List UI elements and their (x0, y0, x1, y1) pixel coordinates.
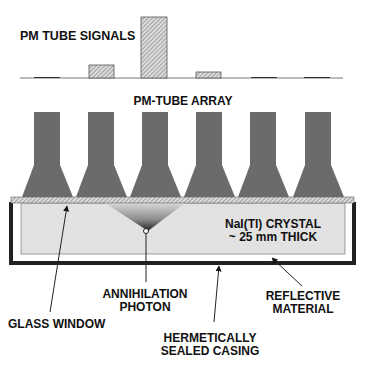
reflective-line2: MATERIAL (262, 303, 344, 316)
signal-bar-4 (196, 72, 221, 78)
array-title: PM-TUBE ARRAY (120, 95, 246, 108)
signal-bar-3 (141, 17, 167, 78)
casing-line2: SEALED CASING (160, 345, 260, 358)
signal-bar-6 (304, 77, 330, 78)
casing-arrow (214, 266, 219, 322)
interaction-point-icon (144, 229, 149, 234)
glass-window (11, 197, 354, 203)
signal-bar-5 (251, 77, 277, 78)
reflective-material-label: REFLECTIVE MATERIAL (262, 290, 344, 316)
hermetic-casing-label: HERMETICALLY SEALED CASING (160, 332, 260, 358)
crystal-label: NaI(Tl) CRYSTAL ~ 25 mm THICK (218, 218, 328, 244)
glass-window-label: GLASS WINDOW (8, 318, 104, 331)
signals-title: PM TUBE SIGNALS (20, 30, 135, 43)
pm-tube-2 (76, 112, 127, 197)
pm-tube-3 (130, 112, 181, 197)
signal-bar-chart (20, 17, 343, 78)
pm-tube-6 (293, 112, 344, 197)
signal-bar-1 (34, 77, 60, 78)
pm-tube-array (22, 112, 344, 197)
pm-tube-1 (22, 112, 73, 197)
annihilation-photon-label: ANNIHILATION PHOTON (100, 288, 190, 314)
pm-tube-5 (238, 112, 289, 197)
signal-bar-2 (89, 65, 114, 78)
annihilation-line2: PHOTON (100, 301, 190, 314)
crystal-label-line2: ~ 25 mm THICK (218, 231, 328, 244)
pm-tube-4 (184, 112, 235, 197)
